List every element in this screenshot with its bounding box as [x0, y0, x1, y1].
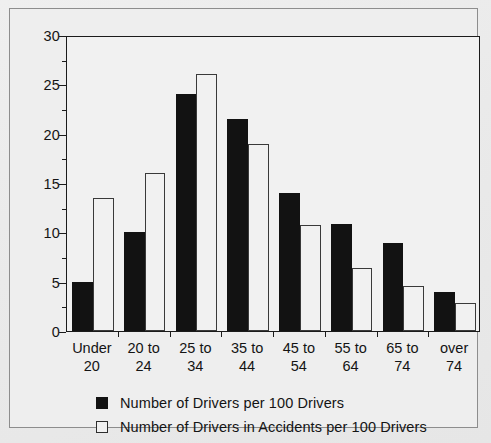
- bar: [227, 119, 248, 331]
- legend-swatch: [96, 397, 108, 409]
- x-tick-label-line: 64: [325, 357, 377, 375]
- x-tick-label: 65 to74: [377, 339, 429, 375]
- x-tick-mark: [325, 332, 326, 337]
- legend-item: Number of Drivers per 100 Drivers: [96, 392, 436, 414]
- x-tick-mark: [118, 332, 119, 337]
- y-tick-mark: [59, 233, 66, 234]
- bar: [403, 286, 424, 331]
- x-tick-label-line: 24: [118, 357, 170, 375]
- chart-figure: 051015202530 Under2020 to2425 to3435 to4…: [0, 0, 491, 443]
- x-tick-mark: [273, 332, 274, 337]
- y-tick-mark: [59, 332, 66, 333]
- x-tick-mark: [221, 332, 222, 337]
- x-tick-label-line: 45 to: [273, 339, 325, 357]
- x-tick-label-line: 20 to: [118, 339, 170, 357]
- x-tick-label: 35 to44: [221, 339, 273, 375]
- x-tick-label-line: 34: [170, 357, 222, 375]
- y-tick-label: 10: [20, 226, 60, 241]
- bar: [455, 303, 476, 331]
- bar: [331, 224, 352, 331]
- bar: [124, 232, 145, 331]
- bar: [352, 268, 373, 331]
- y-tick-mark: [59, 283, 66, 284]
- y-tick-mark: [59, 85, 66, 86]
- x-tick-label-line: 74: [428, 357, 480, 375]
- bar: [176, 94, 197, 331]
- x-tick-mark: [170, 332, 171, 337]
- x-tick-label-line: 35 to: [221, 339, 273, 357]
- x-tick-mark: [428, 332, 429, 337]
- y-axis: 051015202530: [18, 36, 60, 332]
- y-tick-label: 25: [20, 78, 60, 93]
- legend-label: Number of Drivers per 100 Drivers: [120, 395, 344, 411]
- y-tick-mark: [59, 36, 66, 37]
- legend-swatch: [96, 421, 108, 433]
- bar: [434, 292, 455, 331]
- x-tick-label-line: 44: [221, 357, 273, 375]
- x-tick-label: 55 to64: [325, 339, 377, 375]
- legend-label: Number of Drivers in Accidents per 100 D…: [120, 419, 427, 435]
- y-tick-label: 0: [20, 325, 60, 340]
- x-tick-label-line: 20: [66, 357, 118, 375]
- x-tick-mark: [377, 332, 378, 337]
- x-tick-label-line: 25 to: [170, 339, 222, 357]
- chart-legend: Number of Drivers per 100 DriversNumber …: [96, 392, 436, 440]
- x-tick-label: Under20: [66, 339, 118, 375]
- x-tick-label-line: 55 to: [325, 339, 377, 357]
- x-tick-label-line: 54: [273, 357, 325, 375]
- bar: [248, 144, 269, 331]
- x-tick-label: 45 to54: [273, 339, 325, 375]
- x-tick-label-line: 65 to: [377, 339, 429, 357]
- y-tick-label: 20: [20, 127, 60, 142]
- bar: [145, 173, 166, 331]
- y-tick-label: 15: [20, 177, 60, 192]
- bar: [300, 225, 321, 331]
- bar: [72, 282, 93, 331]
- x-tick-label-line: 74: [377, 357, 429, 375]
- x-tick-label-line: over: [428, 339, 480, 357]
- legend-item: Number of Drivers in Accidents per 100 D…: [96, 416, 436, 438]
- x-tick-label: 20 to24: [118, 339, 170, 375]
- x-axis-labels: Under2020 to2425 to3435 to4445 to5455 to…: [66, 339, 480, 385]
- x-tick-label: 25 to34: [170, 339, 222, 375]
- x-tick-label-line: Under: [66, 339, 118, 357]
- bar: [196, 74, 217, 331]
- bar: [93, 198, 114, 331]
- x-tick-label: over74: [428, 339, 480, 375]
- y-tick-label: 30: [20, 29, 60, 44]
- bar: [383, 243, 404, 331]
- y-tick-mark: [59, 135, 66, 136]
- y-tick-mark: [59, 184, 66, 185]
- y-tick-label: 5: [20, 275, 60, 290]
- bar: [279, 193, 300, 331]
- figure-frame: 051015202530 Under2020 to2425 to3435 to4…: [9, 8, 478, 428]
